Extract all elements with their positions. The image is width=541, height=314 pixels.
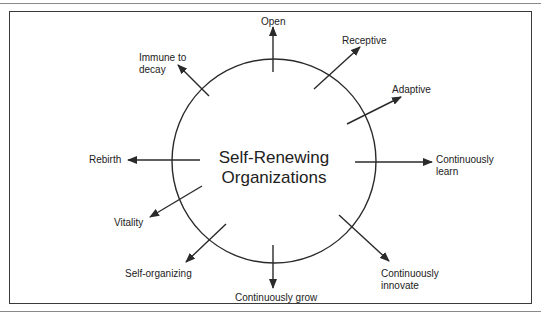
label-continuously-grow: Continuously grow	[235, 292, 317, 304]
center-label-line-2: Organizations	[219, 168, 330, 188]
center-label-line-1: Self-Renewing	[219, 148, 330, 168]
label-continuously-learn: Continuously learn	[436, 154, 494, 178]
arrow-receptive	[314, 47, 360, 89]
label-immune-to-decay: Immune to decay	[139, 52, 186, 76]
label-continuously-innovate: Continuously innovate	[381, 268, 439, 292]
arrow-continuously-innovate	[339, 215, 389, 261]
label-vitality: Vitality	[114, 217, 143, 229]
label-open: Open	[261, 16, 285, 28]
arrow-adaptive	[347, 97, 401, 124]
label-receptive: Receptive	[342, 35, 386, 47]
arrow-self-organizing	[186, 224, 226, 262]
label-rebirth: Rebirth	[89, 154, 121, 166]
center-label: Self-Renewing Organizations	[219, 148, 330, 188]
label-adaptive: Adaptive	[392, 84, 431, 96]
label-self-organizing: Self-organizing	[125, 268, 192, 280]
